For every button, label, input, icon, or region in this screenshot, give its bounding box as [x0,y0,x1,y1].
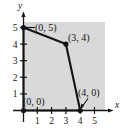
x-tick-label-3: 3 [64,116,69,126]
x-tick-label-4: 4 [78,116,83,126]
y-axis-arrowhead [21,12,25,18]
vertex-marker-4-0 [78,108,83,113]
point-label-0-0: (0, 0) [23,96,45,108]
y-tick-label-1: 1 [13,89,18,99]
y-tick-labels: 1 2 3 4 5 [13,23,18,99]
x-axis-arrowhead [108,108,114,112]
y-axis-label: y [17,1,23,11]
x-tick-label-2: 2 [49,116,54,126]
x-axis-label: x [114,100,120,110]
y-tick-label-4: 4 [13,40,18,50]
x-tick-label-1: 1 [35,116,40,126]
y-tick-label-3: 3 [13,56,18,66]
vertex-marker-0-0 [21,108,26,113]
point-label-0-5: (0, 5) [35,22,57,34]
point-label-4-0: (4, 0) [78,87,100,99]
point-label-3-4: (3, 4) [68,32,90,44]
y-tick-label-2: 2 [13,73,18,83]
polygon-figure: y x 1 2 3 4 5 1 2 3 [0,0,122,129]
x-tick-label-5: 5 [92,116,97,126]
vertex-marker-0-5 [21,25,26,30]
y-tick-label-5: 5 [13,23,18,33]
x-tick-labels: 1 2 3 4 5 [35,116,97,126]
figure-container: y x 1 2 3 4 5 1 2 3 [0,0,122,129]
